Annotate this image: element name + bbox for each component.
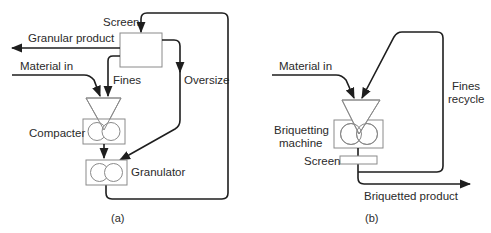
screen-box-b <box>340 156 377 164</box>
material-in-label-a: Material in <box>20 60 73 72</box>
oversize-label: Oversize <box>184 74 229 86</box>
caption-a: (a) <box>111 212 124 224</box>
granulator-label: Granulator <box>131 166 186 178</box>
fines-label: Fines <box>113 74 141 86</box>
screen-label-b: Screen <box>304 155 340 167</box>
caption-b: (b) <box>365 212 378 224</box>
compacter-label: Compacter <box>29 127 85 139</box>
diagram-b: Material in Fines recycle Briquetting ma… <box>272 32 484 224</box>
granular-product-label: Granular product <box>28 32 115 44</box>
diagram-a: Screen Granular product Material in Fine… <box>12 13 229 224</box>
machine-to-product-flow <box>358 148 470 184</box>
material-in-label-b: Material in <box>279 60 332 72</box>
material-in-flow-b <box>272 75 354 98</box>
process-flow-diagrams: Screen Granular product Material in Fine… <box>0 0 491 233</box>
briquetted-product-label: Briquetted product <box>364 190 459 202</box>
screen-box-a <box>120 33 162 67</box>
fines-recycle-label-1: Fines <box>452 80 480 92</box>
fines-recycle-label-2: recycle <box>448 93 484 105</box>
oversize-flow-top <box>162 40 180 72</box>
screen-label-a: Screen <box>103 16 139 28</box>
granulator-roll-right <box>105 164 123 182</box>
material-in-flow-a <box>12 75 100 96</box>
briquetting-label-1: Briquetting <box>274 124 329 136</box>
briquetting-label-2: machine <box>279 137 322 149</box>
compacter-roll-right <box>102 123 120 141</box>
